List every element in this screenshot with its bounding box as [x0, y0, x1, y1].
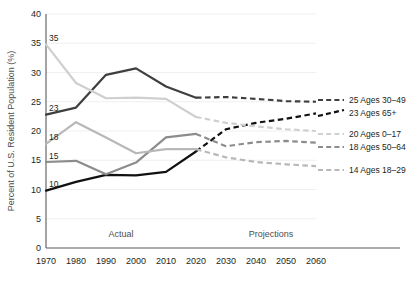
- x-tick-label: 2000: [126, 256, 146, 266]
- actual-label: Actual: [108, 229, 133, 239]
- chart-container: 0510152025303540 19701980199020002010202…: [0, 0, 414, 281]
- y-tick-label: 20: [31, 126, 41, 136]
- x-tick-label: 2020: [186, 256, 206, 266]
- legend-label-4: 14 Ages 18–29: [349, 165, 406, 175]
- x-tick-label: 1990: [96, 256, 116, 266]
- legend-label-2: 20 Ages 0–17: [349, 129, 401, 139]
- series-start-label-4: 18: [49, 132, 59, 142]
- y-tick-label: 5: [36, 214, 41, 224]
- legend-label-3: 18 Ages 50–64: [349, 142, 406, 152]
- legend-label-1: 23 Ages 65+: [349, 108, 397, 118]
- x-tick-label: 2060: [306, 256, 326, 266]
- x-tick-label: 2010: [156, 256, 176, 266]
- projections-label: Projections: [249, 229, 294, 239]
- x-tick-label: 2050: [276, 256, 296, 266]
- x-tick-label: 2030: [216, 256, 236, 266]
- y-tick-label: 15: [31, 155, 41, 165]
- legend-label-0: 25 Ages 30–49: [349, 95, 406, 105]
- y-tick-label: 35: [31, 38, 41, 48]
- y-axis-title: Percent of U.S. Resident Population (%): [6, 51, 16, 212]
- y-tick-label: 10: [31, 185, 41, 195]
- x-tick-label: 1980: [66, 256, 86, 266]
- series-start-label-2: 35: [49, 33, 59, 43]
- series-start-label-0: 23: [49, 103, 59, 113]
- y-tick-label: 0: [36, 243, 41, 253]
- population-by-age-line-chart: 0510152025303540 19701980199020002010202…: [0, 0, 414, 281]
- y-tick-label: 40: [31, 9, 41, 19]
- chart-background: [0, 0, 414, 281]
- series-start-label-1: 10: [49, 179, 59, 189]
- y-tick-label: 25: [31, 97, 41, 107]
- x-tick-label: 1970: [36, 256, 56, 266]
- y-tick-label: 30: [31, 68, 41, 78]
- x-tick-label: 2040: [246, 256, 266, 266]
- series-start-label-3: 15: [49, 151, 59, 161]
